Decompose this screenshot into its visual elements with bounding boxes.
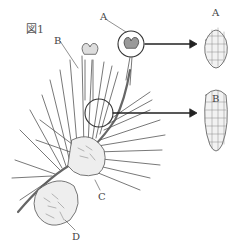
label-a: A — [100, 12, 107, 22]
enlarged-label-a: A — [212, 8, 219, 18]
enlarged-label-b: B — [212, 94, 219, 104]
pine-branch-illustration — [0, 0, 240, 247]
label-b: B — [54, 36, 61, 46]
label-c: C — [98, 192, 106, 202]
label-d: D — [72, 232, 80, 242]
